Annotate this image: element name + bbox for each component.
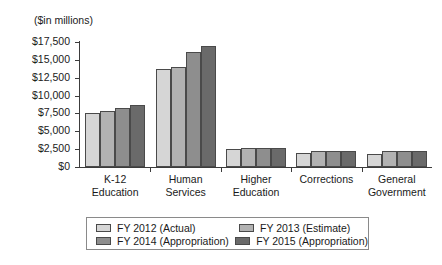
bar-group <box>226 42 286 167</box>
legend-label-fy2012: FY 2012 (Actual) <box>117 222 196 234</box>
bar <box>241 148 256 167</box>
legend-label-fy2014: FY 2014 (Appropriation) <box>117 235 229 247</box>
plot-area: $17,500$15,000$12,500$10,000$7,500$5,000… <box>80 42 432 167</box>
bar <box>130 105 145 167</box>
bar <box>226 149 241 167</box>
x-axis-tick <box>150 167 151 172</box>
bar <box>296 153 311 167</box>
bar <box>341 151 356 167</box>
y-axis-tick-label: $0 <box>58 160 70 172</box>
x-axis-tick <box>362 167 363 172</box>
bar <box>100 111 115 167</box>
legend-label-fy2013: FY 2013 (Estimate) <box>260 222 350 234</box>
x-axis-category-label: K-12Education <box>80 173 150 199</box>
bar <box>326 151 341 167</box>
y-axis-tick-label: $5,000 <box>38 124 70 136</box>
chart-title: ($in millions) <box>34 14 93 26</box>
y-axis-tick-label: $7,500 <box>38 106 70 118</box>
category-label-line: Higher <box>221 173 291 186</box>
category-label-line: Education <box>221 186 291 199</box>
category-label-line: General <box>362 173 432 186</box>
y-axis-tick: $12,500 <box>75 78 80 79</box>
legend-swatch-icon-fy2014 <box>96 237 111 245</box>
bar <box>186 52 201 167</box>
category-label-line: Government <box>362 186 432 199</box>
bar <box>171 67 186 167</box>
category-label-line: K-12 <box>80 173 150 186</box>
bar <box>256 148 271 167</box>
category-label-line: Services <box>150 186 220 199</box>
chart-legend: FY 2012 (Actual) FY 2013 (Estimate) FY 2… <box>86 217 369 250</box>
category-label-line: Corrections <box>291 173 361 186</box>
y-axis-tick: $17,500 <box>75 42 80 43</box>
y-axis-tick-label: $12,500 <box>32 71 70 83</box>
y-axis-tick: $10,000 <box>75 96 80 97</box>
bar <box>367 154 382 167</box>
bar-group <box>296 42 356 167</box>
bar <box>311 151 326 167</box>
x-axis-category-label: Corrections <box>291 173 361 186</box>
bar-group <box>367 42 427 167</box>
x-axis-category-label: GeneralGovernment <box>362 173 432 199</box>
y-axis-tick-label: $17,500 <box>32 35 70 47</box>
bar <box>412 151 427 167</box>
y-axis-tick: $15,000 <box>75 60 80 61</box>
bar <box>156 69 171 167</box>
bar <box>382 151 397 167</box>
bar <box>201 46 216 167</box>
bar <box>271 148 286 167</box>
bar <box>397 151 412 167</box>
x-axis-tick <box>291 167 292 172</box>
legend-row: FY 2014 (Appropriation) FY 2015 (Appropr… <box>87 234 368 247</box>
x-axis-tick <box>221 167 222 172</box>
y-axis-tick: $5,000 <box>75 131 80 132</box>
y-axis-tick-label: $2,500 <box>38 142 70 154</box>
bar-group <box>85 42 145 167</box>
legend-entry-fy2015: FY 2015 (Appropriation) <box>235 235 368 247</box>
bar <box>115 108 130 167</box>
x-axis-line <box>79 167 432 168</box>
legend-swatch-icon-fy2012 <box>96 224 111 232</box>
legend-entry-fy2014: FY 2014 (Appropriation) <box>87 235 235 247</box>
x-axis-category-label: HumanServices <box>150 173 220 199</box>
legend-entry-fy2013: FY 2013 (Estimate) <box>239 222 350 234</box>
legend-row: FY 2012 (Actual) FY 2013 (Estimate) <box>87 221 368 234</box>
legend-swatch-icon-fy2013 <box>239 224 254 232</box>
y-axis-tick: $0 <box>75 167 80 168</box>
y-axis-tick-label: $15,000 <box>32 53 70 65</box>
y-axis-tick-label: $10,000 <box>32 89 70 101</box>
y-axis-tick: $2,500 <box>75 149 80 150</box>
legend-swatch-icon-fy2015 <box>235 237 250 245</box>
bar <box>85 113 100 167</box>
y-axis-tick: $7,500 <box>75 113 80 114</box>
legend-label-fy2015: FY 2015 (Appropriation) <box>256 235 368 247</box>
bar-chart-figure: ($in millions) $17,500$15,000$12,500$10,… <box>0 0 442 265</box>
x-axis-category-label: HigherEducation <box>221 173 291 199</box>
legend-entry-fy2012: FY 2012 (Actual) <box>87 222 239 234</box>
category-label-line: Education <box>80 186 150 199</box>
bar-group <box>156 42 216 167</box>
category-label-line: Human <box>150 173 220 186</box>
